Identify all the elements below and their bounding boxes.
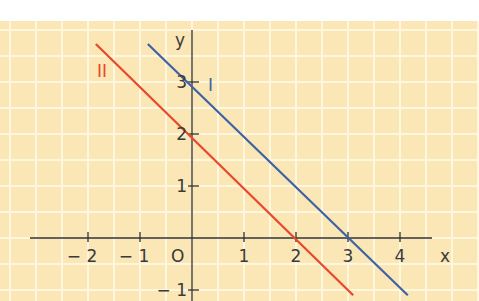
x-tick-label: − 1	[119, 246, 149, 266]
x-axis-label: x	[440, 246, 450, 266]
y-tick-label: − 1	[157, 280, 187, 300]
coordinate-diagram: − 2− 11234321− 1xyOIII	[0, 0, 479, 301]
x-tick-label: 3	[343, 246, 354, 266]
y-tick-label: 1	[176, 176, 187, 196]
origin-label: O	[171, 246, 184, 266]
y-tick-label: 2	[176, 124, 187, 144]
x-tick-label: 4	[395, 246, 406, 266]
line-ii-label: II	[97, 61, 107, 81]
x-tick-label: − 2	[67, 246, 97, 266]
y-axis-label: y	[175, 30, 185, 50]
line-i-label: I	[208, 75, 213, 95]
x-tick-label: 2	[291, 246, 302, 266]
x-tick-label: 1	[239, 246, 250, 266]
y-tick-label: 3	[176, 72, 187, 92]
